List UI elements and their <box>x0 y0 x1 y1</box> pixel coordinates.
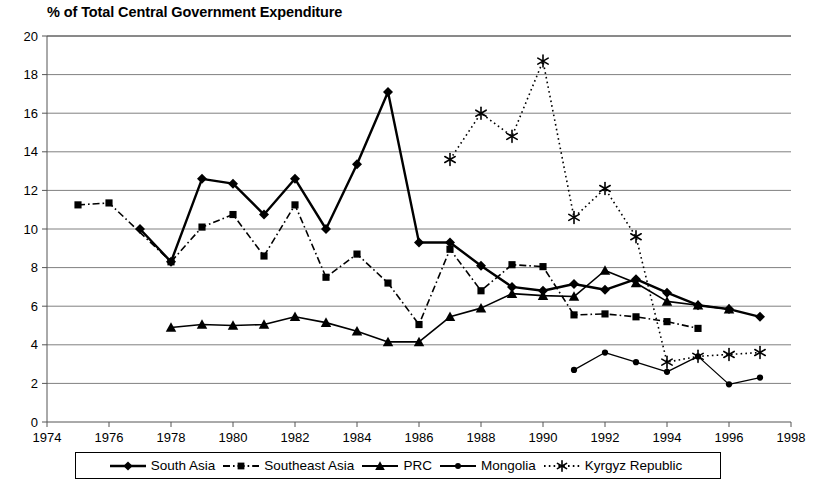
data-point <box>384 279 391 286</box>
y-tick-label: 18 <box>24 67 38 82</box>
x-tick-label: 1984 <box>343 430 372 445</box>
x-tick-label: 1982 <box>281 430 310 445</box>
data-point <box>600 265 611 275</box>
x-tick-label: 1996 <box>715 430 744 445</box>
x-tick-label: 1994 <box>653 430 682 445</box>
x-tick-label: 1990 <box>529 430 558 445</box>
x-tick-label: 1980 <box>219 430 248 445</box>
data-point <box>414 238 424 248</box>
x-tick-label: 1986 <box>405 430 434 445</box>
square-marker-icon <box>221 458 261 474</box>
data-point <box>291 201 298 208</box>
data-point <box>105 199 112 206</box>
chart-legend: South AsiaSoutheast AsiaPRCMongoliaKyrgy… <box>75 452 721 479</box>
data-point <box>600 285 610 295</box>
y-tick-label: 10 <box>24 222 38 237</box>
x-tick-label: 1992 <box>591 430 620 445</box>
data-point <box>290 312 301 322</box>
data-point <box>662 296 673 306</box>
data-point <box>508 261 515 268</box>
data-point <box>538 55 548 67</box>
data-point <box>633 359 639 365</box>
legend-label: South Asia <box>148 458 222 473</box>
y-tick-label: 6 <box>31 299 38 314</box>
circle-marker-icon <box>438 458 478 474</box>
data-point <box>755 312 765 322</box>
data-point <box>476 303 487 313</box>
data-point <box>353 251 360 258</box>
legend-item-mongolia[interactable]: Mongolia <box>438 458 542 474</box>
data-point <box>446 246 453 253</box>
diamond-marker-icon <box>108 458 148 474</box>
data-point <box>601 310 608 317</box>
data-point <box>322 274 329 281</box>
y-tick-label: 0 <box>31 415 38 430</box>
data-point <box>664 369 670 375</box>
data-point <box>724 348 734 360</box>
x-tick-label: 1998 <box>777 430 806 445</box>
data-point <box>197 174 207 184</box>
y-tick-label: 14 <box>24 144 38 159</box>
data-point <box>415 321 422 328</box>
y-tick-label: 2 <box>31 376 38 391</box>
data-point <box>571 367 577 373</box>
data-point <box>600 182 610 194</box>
x-tick-label: 1978 <box>157 430 186 445</box>
data-point <box>74 201 81 208</box>
data-point <box>726 381 732 387</box>
x-tick-label: 1976 <box>95 430 124 445</box>
y-tick-label: 8 <box>31 260 38 275</box>
x-tick-label: 1988 <box>467 430 496 445</box>
data-point <box>694 325 701 332</box>
chart-canvas: 0246810121416182019741976197819801982198… <box>0 0 813 481</box>
legend-item-southeast-asia[interactable]: Southeast Asia <box>221 458 360 474</box>
data-point <box>663 318 670 325</box>
series-south-asia <box>135 87 765 322</box>
legend-label: Southeast Asia <box>261 458 360 473</box>
data-point <box>477 287 484 294</box>
series-line <box>140 92 760 317</box>
series-kyrgyz-republic <box>445 55 765 368</box>
y-tick-label: 20 <box>24 29 38 44</box>
legend-item-south-asia[interactable]: South Asia <box>108 458 222 474</box>
legend-item-kyrgyz-republic[interactable]: Kyrgyz Republic <box>542 458 689 474</box>
data-point <box>167 258 174 265</box>
data-point <box>757 374 763 380</box>
triangle-marker-icon <box>360 458 400 474</box>
data-point <box>570 311 577 318</box>
data-point <box>632 313 639 320</box>
y-tick-label: 16 <box>24 106 38 121</box>
series-southeast-asia <box>74 199 701 332</box>
data-point <box>229 211 236 218</box>
data-point <box>602 349 608 355</box>
data-point <box>383 87 393 97</box>
legend-label: Mongolia <box>478 458 542 473</box>
data-point <box>569 279 579 289</box>
data-point <box>539 263 546 270</box>
data-point <box>507 130 517 142</box>
x-tick-label: 1974 <box>33 430 62 445</box>
legend-label: PRC <box>400 458 438 473</box>
legend-item-prc[interactable]: PRC <box>360 458 438 474</box>
data-point <box>569 211 579 223</box>
asterisk-marker-icon <box>542 458 582 474</box>
data-point <box>631 231 641 243</box>
data-point <box>352 159 362 169</box>
data-point <box>260 252 267 259</box>
y-tick-label: 4 <box>31 337 38 352</box>
legend-label: Kyrgyz Republic <box>582 458 689 473</box>
y-tick-label: 12 <box>24 183 38 198</box>
data-point <box>198 224 205 231</box>
chart-plot-area: 0246810121416182019741976197819801982198… <box>0 0 813 481</box>
data-point <box>693 350 703 362</box>
